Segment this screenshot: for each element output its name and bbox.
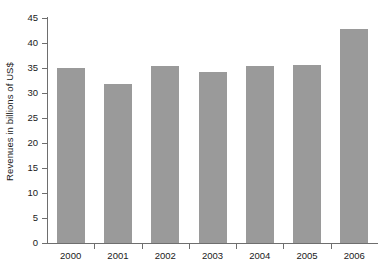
y-axis-tick-label-text: 45 (14, 13, 38, 23)
bar (57, 68, 85, 243)
x-axis-tick-label: 2000 (47, 251, 94, 261)
y-axis-tick-label-text: 20 (14, 138, 38, 148)
y-axis-tick-label-text: 40 (14, 38, 38, 48)
y-axis-tick-label: 35 (12, 63, 38, 73)
bar-chart: Revenues in billions of US$ 051015202530… (0, 0, 382, 278)
y-axis-tick-label: 10 (12, 188, 38, 198)
y-axis-tick-label-text: 0 (14, 238, 38, 248)
y-axis-tick-label: 15 (12, 163, 38, 173)
x-axis-tick (283, 244, 284, 249)
x-axis-tick (189, 244, 190, 249)
y-axis-tick-label: 5 (12, 213, 38, 223)
x-axis-tick-label: 2002 (142, 251, 189, 261)
bar (246, 66, 274, 244)
bar (293, 65, 321, 244)
bar (340, 29, 368, 244)
y-axis-tick-label: 30 (12, 88, 38, 98)
bar (199, 72, 227, 244)
x-axis-tick (331, 244, 332, 249)
x-axis-tick-label: 2001 (94, 251, 141, 261)
x-axis-tick-label: 2004 (236, 251, 283, 261)
y-axis-tick-label-text: 5 (14, 213, 38, 223)
x-axis-tick-label: 2006 (331, 251, 378, 261)
y-axis-tick-label-text: 15 (14, 163, 38, 173)
y-axis-tick-label: 40 (12, 38, 38, 48)
bar (104, 84, 132, 243)
y-axis-tick-label-text: 10 (14, 188, 38, 198)
x-axis-line (47, 243, 378, 244)
y-axis-tick-label: 45 (12, 13, 38, 23)
x-axis-tick-label: 2003 (189, 251, 236, 261)
y-axis-tick-label: 25 (12, 113, 38, 123)
x-axis-tick (142, 244, 143, 249)
y-axis-tick-label-text: 30 (14, 88, 38, 98)
x-axis-tick (94, 244, 95, 249)
plot-area (47, 18, 378, 243)
caption-remnant (28, 270, 120, 278)
x-axis-tick (236, 244, 237, 249)
y-axis-tick-label: 20 (12, 138, 38, 148)
x-axis-tick-label: 2005 (283, 251, 330, 261)
bar (151, 66, 179, 243)
y-axis-tick-label: 0 (12, 238, 38, 248)
y-axis-tick-label-text: 25 (14, 113, 38, 123)
y-axis-tick-label-text: 35 (14, 63, 38, 73)
y-axis-tick (42, 243, 47, 244)
